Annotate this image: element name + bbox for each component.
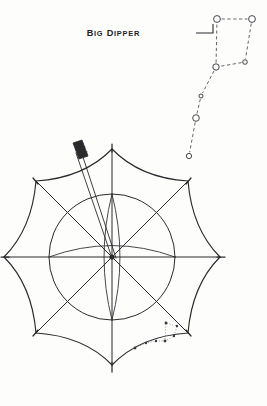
canopy-scallop-nw-n bbox=[36, 149, 112, 181]
link-megrez-dubhe bbox=[216, 24, 217, 63]
motif-dot-5 bbox=[173, 335, 175, 337]
canopy-scallop-e-se bbox=[188, 257, 220, 333]
star-phecda bbox=[243, 60, 248, 65]
star-mizar bbox=[193, 115, 200, 122]
star-alkaid bbox=[186, 153, 191, 158]
motif-dot-2 bbox=[145, 342, 147, 344]
big-dipper-label: BIG DIPPER bbox=[87, 28, 140, 38]
canopy-scallop-ne-e bbox=[188, 181, 220, 257]
handle-ferrule bbox=[73, 140, 88, 159]
label-cap-b: B bbox=[87, 28, 94, 38]
label-cap-d: D bbox=[103, 28, 114, 38]
constellation-stars bbox=[186, 16, 255, 159]
umbrella-constellation-figure: BIG DIPPER bbox=[0, 0, 267, 406]
link-merak-phecda bbox=[246, 24, 252, 59]
motif-dot-7 bbox=[165, 322, 168, 325]
umbrella-handle bbox=[73, 140, 116, 258]
label-ipper: IPPER bbox=[114, 29, 140, 38]
motif-dot-1 bbox=[134, 347, 137, 350]
star-dubhe bbox=[214, 16, 221, 23]
big-dipper-diagram: BIG DIPPER bbox=[87, 16, 256, 159]
link-alioth-mizar bbox=[197, 99, 200, 113]
star-merak bbox=[249, 16, 256, 23]
rib-southwest bbox=[36, 257, 112, 333]
link-mizar-alkaid bbox=[190, 122, 195, 152]
canopy-scallop-n-ne bbox=[112, 149, 188, 181]
star-megrez bbox=[213, 64, 219, 70]
link-phecda-megrez bbox=[220, 63, 241, 67]
shaft-right-edge bbox=[81, 151, 116, 258]
umbrella bbox=[1, 140, 225, 372]
star-alioth bbox=[199, 94, 203, 98]
illustration-page: BIG DIPPER bbox=[0, 0, 267, 406]
rib-southeast bbox=[112, 257, 188, 333]
motif-dot-4 bbox=[164, 340, 167, 343]
constellation-links bbox=[190, 19, 252, 152]
label-ig: IG bbox=[94, 29, 103, 38]
motif-dot-3 bbox=[155, 340, 157, 342]
canopy-scallop-sw-w bbox=[4, 257, 36, 333]
label-leader-line bbox=[196, 24, 213, 33]
canopy-scallop-w-nw bbox=[4, 181, 36, 257]
shaft-left-edge bbox=[76, 153, 112, 258]
link-megrez-alioth bbox=[202, 71, 214, 93]
canopy-scallop-s-sw bbox=[36, 333, 112, 365]
motif-dot-6 bbox=[176, 325, 178, 327]
hub-center bbox=[109, 254, 114, 259]
canopy-scallop-se-s bbox=[112, 333, 188, 365]
